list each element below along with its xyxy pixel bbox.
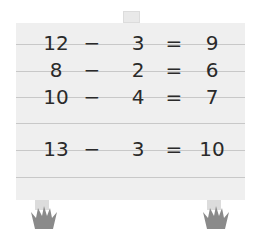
result: 9 xyxy=(192,31,232,55)
board-hanger xyxy=(123,11,140,23)
result: 6 xyxy=(192,58,232,82)
equals-sign: = xyxy=(164,85,184,109)
minus-sign: − xyxy=(82,31,102,55)
equation-board: 12 − 3 = 9 8 − 2 = 6 10 − 4 = 7 13 − 3 =… xyxy=(16,23,245,200)
equation-row-3: 10 − 4 = 7 xyxy=(16,85,245,112)
grass-right-icon xyxy=(201,206,231,229)
minus-sign: − xyxy=(82,137,102,161)
equals-sign: = xyxy=(164,31,184,55)
operand-a: 10 xyxy=(36,85,76,109)
result: 10 xyxy=(192,137,232,161)
equation-row-2: 8 − 2 = 6 xyxy=(16,58,245,85)
operand-a: 13 xyxy=(36,137,76,161)
board-line xyxy=(16,177,245,178)
operand-b: 3 xyxy=(123,31,153,55)
operand-b: 4 xyxy=(123,85,153,109)
minus-sign: − xyxy=(82,58,102,82)
minus-sign: − xyxy=(82,85,102,109)
grass-left-icon xyxy=(29,206,59,229)
result: 7 xyxy=(192,85,232,109)
equals-sign: = xyxy=(164,58,184,82)
operand-a: 8 xyxy=(36,58,76,82)
operand-a: 12 xyxy=(36,31,76,55)
board-line xyxy=(16,123,245,124)
operand-b: 3 xyxy=(123,137,153,161)
equation-row-4: 13 − 3 = 10 xyxy=(16,137,245,164)
operand-b: 2 xyxy=(123,58,153,82)
equals-sign: = xyxy=(164,137,184,161)
equation-row-1: 12 − 3 = 9 xyxy=(16,31,245,58)
